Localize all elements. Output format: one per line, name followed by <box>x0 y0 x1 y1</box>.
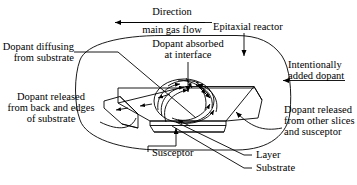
label-epitaxial-reactor: Epitaxial reactor <box>213 21 283 33</box>
label-main-gas-flow: main gas flow <box>124 24 220 36</box>
label-substrate: Substrate <box>256 162 295 174</box>
label-dopant-diffusing-line2: from substrate <box>0 52 74 64</box>
label-susceptor: Susceptor <box>152 147 193 159</box>
label-dopant-diffusing-line1: Dopant diffusing <box>0 41 74 53</box>
label-released-back-line3: of substrate <box>0 113 102 125</box>
label-layer: Layer <box>256 149 280 161</box>
label-released-back-line2: from back and edges <box>0 102 102 114</box>
epitaxial-reactor-diagram: Direction main gas flow Epitaxial reacto… <box>0 0 357 185</box>
label-intentionally-added-line2: added dopant <box>288 70 344 82</box>
label-released-other-line3: and susceptor <box>284 126 341 138</box>
label-released-back-line1: Dopant released <box>0 91 102 103</box>
label-intentionally-added-line1: Intentionally <box>288 59 342 71</box>
label-dopant-absorbed-line2: at interface <box>140 49 236 61</box>
label-dopant-absorbed-line1: Dopant absorbed <box>140 38 236 50</box>
label-released-other-line2: from other slices <box>284 115 355 127</box>
label-direction: Direction <box>130 6 214 18</box>
label-released-other-line1: Dopant released <box>284 104 352 116</box>
